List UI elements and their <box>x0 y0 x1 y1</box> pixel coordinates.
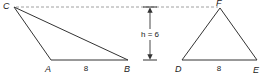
base-length-de: 8 <box>217 64 222 73</box>
two-triangles-diagram: h = 6 C A B 8 F D E 8 <box>0 0 261 75</box>
vertex-label-a: A <box>44 64 51 74</box>
vertex-label-e: E <box>253 65 260 75</box>
height-label: h = 6 <box>141 30 160 39</box>
triangle-abc <box>14 7 128 60</box>
vertex-label-b: B <box>124 64 130 74</box>
vertex-label-d: D <box>175 64 182 74</box>
base-length-ab: 8 <box>84 64 89 73</box>
vertex-label-f: F <box>216 0 222 8</box>
triangle-def <box>182 8 257 60</box>
vertex-label-c: C <box>3 1 10 11</box>
height-indicator: h = 6 <box>140 7 160 60</box>
